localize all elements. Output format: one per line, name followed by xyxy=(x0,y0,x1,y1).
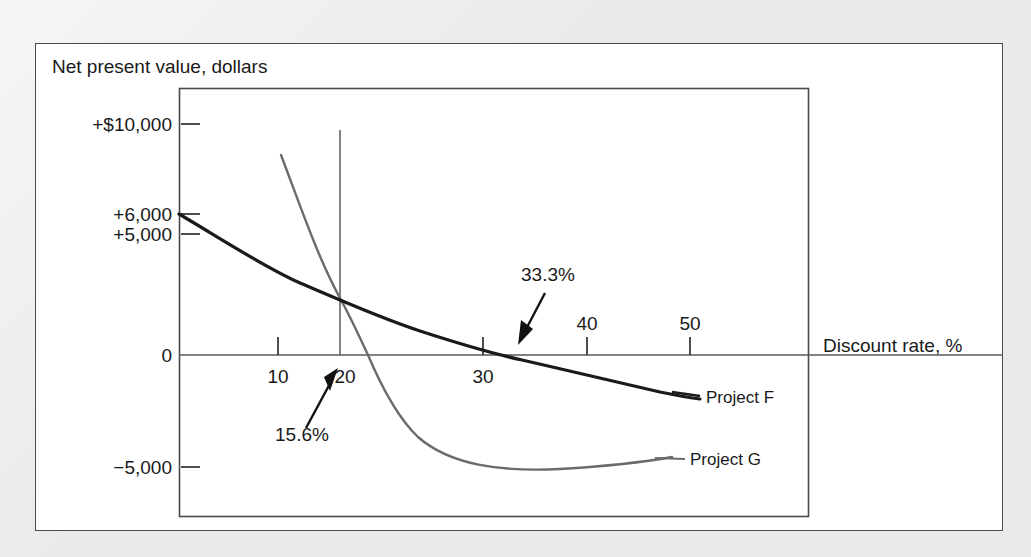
annotation-33-3-arrow xyxy=(518,293,545,345)
x-tick-label-20: 20 xyxy=(334,366,355,387)
x-axis-title: Discount rate, % xyxy=(823,335,962,356)
annotation-15-6-label: 15.6% xyxy=(275,424,329,445)
y-tick-label-6000: +6,000 xyxy=(113,204,172,225)
series-line-project-f xyxy=(179,214,700,399)
y-tick-label-minus5000: −5,000 xyxy=(113,457,172,478)
x-tick-label-50: 50 xyxy=(679,313,700,334)
series-label-leader-g xyxy=(655,458,685,459)
y-axis-title: Net present value, dollars xyxy=(52,56,267,77)
annotation-15-6-arrow xyxy=(306,368,338,428)
y-axis-ticks xyxy=(181,124,200,467)
series-label-project-g: Project G xyxy=(690,450,761,469)
annotation-33-3-label: 33.3% xyxy=(521,264,575,285)
npv-profile-chart: Net present value, dollars Discount rate… xyxy=(0,0,1031,557)
x-tick-label-40: 40 xyxy=(576,313,597,334)
y-tick-label-0: 0 xyxy=(161,345,172,366)
y-tick-label-5000: +5,000 xyxy=(113,224,172,245)
series-label-project-f: Project F xyxy=(706,388,774,407)
x-tick-label-30: 30 xyxy=(472,366,493,387)
x-tick-label-10: 10 xyxy=(267,366,288,387)
y-tick-label-10000: +$10,000 xyxy=(92,114,172,135)
